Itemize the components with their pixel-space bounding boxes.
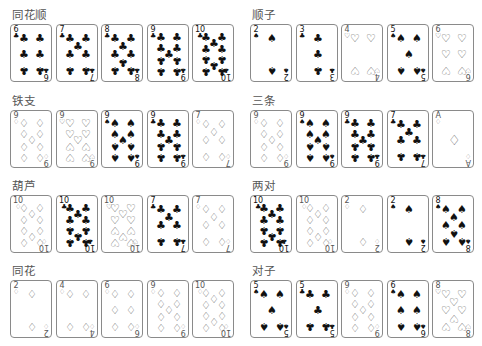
diamond-icon: ♢ [155, 322, 167, 333]
playing-card-7-of-club: 7♣7♣♣♣♣♣♣♣♣ [387, 110, 429, 168]
spade-icon: ♠ [390, 204, 396, 211]
diamond-icon: ♢ [109, 289, 121, 300]
playing-card-6-of-spade: 6♠6♠♠♠♠♠♠♠ [387, 280, 429, 338]
hand-group-5: 两对10♣10♣♣♣♣♣♣♣♣♣♣♣10♢10♢♢♢♢♢♢♢♢♢♢♢2♢2♢♢♢… [250, 177, 482, 261]
card-corner-index: 2♠ [253, 26, 259, 40]
club-icon: ♣ [411, 151, 423, 162]
diamond-icon: ♢ [64, 321, 76, 332]
spade-icon: ♠ [420, 237, 426, 244]
spade-icon: ♠ [274, 321, 286, 332]
heart-icon: ♡ [440, 321, 452, 332]
club-icon: ♣ [171, 220, 183, 231]
club-icon: ♣ [200, 66, 212, 77]
card-corner-index: 2♢ [43, 322, 49, 336]
diamond-icon: ♢ [357, 204, 369, 215]
club-icon: ♣ [18, 65, 30, 76]
club-icon: ♣ [349, 152, 361, 163]
club-icon: ♣ [80, 237, 92, 248]
hand-title: 三条 [252, 92, 275, 108]
diamond-icon: ♢ [216, 220, 228, 231]
playing-card-10-of-club: 10♣10♣♣♣♣♣♣♣♣♣♣♣ [192, 24, 234, 82]
club-icon: ♣ [320, 321, 332, 332]
diamond-icon: ♢ [109, 321, 121, 332]
heart-icon: ♡ [80, 152, 92, 163]
club-icon: ♣ [34, 49, 46, 60]
playing-card-7-of-diamond: 7♢7♢♢♢♢♢♢♢♢ [192, 195, 234, 253]
playing-card-5-of-spade: 5♠5♠♠♠♠♠♠ [250, 280, 292, 338]
club-icon: ♣ [64, 237, 76, 248]
hand-group-6: 同花2♢2♢♢♢4♢4♢♢♢♢♢6♢6♢♢♢♢♢♢♢9♢9♢♢♢♢♢♢♢♢♢♢1… [10, 262, 245, 346]
diamond-icon: ♢ [216, 322, 228, 333]
club-icon: ♣ [320, 289, 332, 300]
playing-card-9-of-spade: 9♠9♠♠♠♠♠♠♠♠♠♠ [101, 110, 143, 168]
club-icon: ♣ [171, 66, 183, 77]
hand-title: 对子 [252, 262, 275, 278]
club-icon: ♣ [155, 236, 167, 247]
club-icon: ♣ [312, 33, 324, 44]
spade-icon: ♠ [109, 152, 121, 163]
hand-group-2: 铁支9♢9♢♢♢♢♢♢♢♢♢♢9♡9♡♡♡♡♡♡♡♡♡♡9♠9♠♠♠♠♠♠♠♠♠… [10, 92, 245, 176]
diamond-icon: ♢ [216, 151, 228, 162]
heart-icon: ♡ [125, 237, 137, 248]
diamond-icon: ♢ [80, 321, 92, 332]
diamond-icon: ♢ [448, 135, 460, 146]
club-icon: ♣ [304, 289, 316, 300]
club-icon: ♣ [125, 65, 137, 76]
card-corner-index: 2♠ [390, 197, 396, 211]
club-icon: ♣ [80, 65, 92, 76]
club-icon: ♣ [411, 135, 423, 146]
playing-card-9-of-heart: 9♡9♡♡♡♡♡♡♡♡♡♡ [56, 110, 98, 168]
heart-icon: ♡ [440, 33, 452, 44]
spade-icon: ♠ [403, 204, 415, 215]
spade-icon: ♠ [266, 305, 278, 316]
playing-card-9-of-club: 9♣9♣♣♣♣♣♣♣♣♣♣ [341, 110, 383, 168]
card-corner-index: 2♠ [420, 237, 426, 251]
club-icon: ♣ [304, 321, 316, 332]
diamond-icon: ♢ [125, 289, 137, 300]
diamond-icon: ♢ [216, 236, 228, 247]
diamond-icon: ♢ [64, 289, 76, 300]
spade-icon: ♠ [395, 321, 407, 332]
club-icon: ♣ [155, 220, 167, 231]
playing-card-9-of-diamond: 9♢9♢♢♢♢♢♢♢♢♢♢ [250, 110, 292, 168]
heart-icon: ♡ [64, 152, 76, 163]
spade-icon: ♠ [395, 305, 407, 316]
playing-card-5-of-spade: 5♠5♠♠♠♠♠♠ [387, 24, 429, 82]
diamond-icon: ♢ [435, 119, 441, 126]
diamond-icon: ♢ [200, 151, 212, 162]
hand-group-3: 三条9♢9♢♢♢♢♢♢♢♢♢♢9♠9♠♠♠♠♠♠♠♠♠♠9♣9♣♣♣♣♣♣♣♣♣… [250, 92, 482, 176]
card-corner-index: 2♢ [374, 237, 380, 251]
diamond-icon: ♢ [349, 322, 361, 333]
heart-icon: ♡ [365, 33, 377, 44]
diamond-icon: ♢ [34, 237, 46, 248]
playing-card-7-of-club: 7♣7♣♣♣♣♣♣♣♣ [147, 195, 189, 253]
diamond-icon: ♢ [374, 237, 380, 244]
diamond-icon: ♢ [258, 152, 270, 163]
club-icon: ♣ [258, 237, 270, 248]
spade-icon: ♠ [456, 236, 468, 247]
hand-group-0: 同花顺6♣6♣♣♣♣♣♣♣7♣7♣♣♣♣♣♣♣♣8♣8♣♣♣♣♣♣♣♣♣9♣9♣… [10, 6, 245, 90]
club-icon: ♣ [34, 65, 46, 76]
heart-icon: ♡ [456, 321, 468, 332]
hand-group-4: 葫芦10♢10♢♢♢♢♢♢♢♢♢♢♢10♣10♣♣♣♣♣♣♣♣♣♣♣10♡10♡… [10, 177, 245, 261]
diamond-icon: ♢ [26, 321, 38, 332]
spade-icon: ♠ [395, 33, 407, 44]
spade-icon: ♠ [320, 152, 332, 163]
playing-card-10-of-diamond: 10♢10♢♢♢♢♢♢♢♢♢♢♢ [192, 280, 234, 338]
club-icon: ♣ [155, 152, 167, 163]
spade-icon: ♠ [395, 289, 407, 300]
diamond-icon: ♢ [18, 237, 30, 248]
club-icon: ♣ [18, 33, 30, 44]
playing-card-10-of-diamond: 10♢10♢♢♢♢♢♢♢♢♢♢♢ [296, 195, 338, 253]
hand-group-1: 顺子2♠2♠♠♠3♣3♣♣♣♣4♡4♡♡♡♡♡5♠5♠♠♠♠♠♠6♡6♡♡♡♡♡… [250, 6, 482, 90]
card-corner-index: 2♠ [283, 66, 289, 80]
playing-card-9-of-spade: 9♠9♠♠♠♠♠♠♠♠♠♠ [296, 110, 338, 168]
playing-card-4-of-heart: 4♡4♡♡♡♡♡ [341, 24, 383, 82]
diamond-icon: ♢ [125, 321, 137, 332]
hand-title: 顺子 [252, 6, 275, 22]
club-icon: ♣ [64, 65, 76, 76]
playing-card-10-of-heart: 10♡10♡♡♡♡♡♡♡♡♡♡♡ [101, 195, 143, 253]
heart-icon: ♡ [109, 237, 121, 248]
playing-card-2-of-diamond: 2♢2♢♢♢ [341, 195, 383, 253]
diamond-icon: ♢ [304, 237, 316, 248]
